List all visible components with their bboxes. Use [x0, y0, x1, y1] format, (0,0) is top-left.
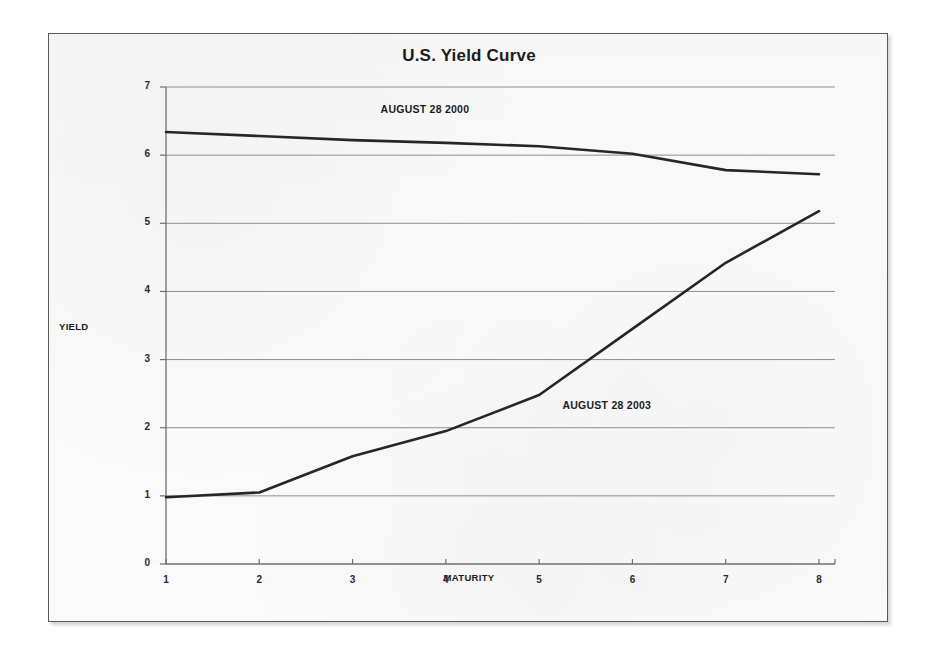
- x-tick-label: 2: [247, 574, 271, 585]
- y-tick-label: 3: [128, 353, 150, 364]
- y-axis-ticks: [160, 87, 166, 564]
- y-tick-label: 1: [128, 489, 150, 500]
- y-tick-label: 0: [128, 557, 150, 568]
- x-tick-label: 5: [527, 574, 551, 585]
- x-tick-label: 8: [807, 574, 831, 585]
- x-tick-label: 6: [620, 574, 644, 585]
- figure-frame: U.S. Yield Curve YIELD MATURITY 01234567…: [48, 33, 888, 622]
- y-tick-label: 2: [128, 421, 150, 432]
- x-tick-label: 1: [154, 574, 178, 585]
- x-tick-label: 3: [341, 574, 365, 585]
- series-annotation-label: AUGUST 28 2000: [381, 103, 470, 115]
- y-tick-label: 4: [128, 284, 150, 295]
- y-tick-label: 7: [128, 80, 150, 91]
- y-axis-label: YIELD: [59, 321, 88, 332]
- series-line: [166, 211, 819, 497]
- gridlines: [166, 87, 835, 496]
- x-axis-ticks: [166, 559, 835, 564]
- chart-page: U.S. Yield Curve YIELD MATURITY 01234567…: [0, 0, 929, 658]
- x-tick-label: 7: [714, 574, 738, 585]
- y-tick-label: 5: [128, 216, 150, 227]
- x-tick-label: 4: [434, 574, 458, 585]
- y-tick-label: 6: [128, 148, 150, 159]
- series-line: [166, 132, 819, 174]
- data-series: [166, 132, 819, 497]
- plot-area: [49, 34, 889, 623]
- series-annotation-label: AUGUST 28 2003: [562, 399, 651, 411]
